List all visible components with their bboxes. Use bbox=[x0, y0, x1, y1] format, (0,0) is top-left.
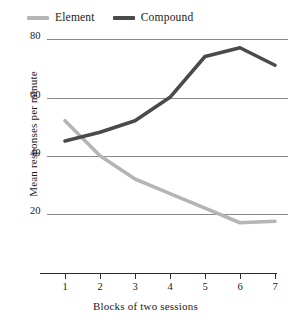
x-tick-7 bbox=[275, 273, 276, 279]
series-line-compound bbox=[65, 48, 275, 141]
x-tick-6 bbox=[240, 273, 241, 279]
x-tick-4 bbox=[170, 273, 171, 279]
series-line-element bbox=[65, 121, 275, 223]
x-tick-5 bbox=[205, 273, 206, 279]
x-tick-label-4: 4 bbox=[163, 282, 177, 293]
x-tick-label-3: 3 bbox=[128, 282, 142, 293]
x-axis-title: Blocks of two sessions bbox=[0, 300, 291, 312]
x-tick-label-7: 7 bbox=[268, 282, 282, 293]
chart-figure: Element Compound Mean responses per minu… bbox=[0, 0, 291, 324]
x-tick-2 bbox=[100, 273, 101, 279]
x-tick-1 bbox=[65, 273, 66, 279]
x-axis-line bbox=[40, 273, 277, 274]
x-tick-label-5: 5 bbox=[198, 282, 212, 293]
x-tick-label-6: 6 bbox=[233, 282, 247, 293]
x-tick-label-2: 2 bbox=[93, 282, 107, 293]
x-tick-3 bbox=[135, 273, 136, 279]
x-tick-label-1: 1 bbox=[58, 282, 72, 293]
plot-area: 80 60 40 20 1 2 3 4 5 6 7 Blocks of two … bbox=[0, 0, 291, 324]
series-layer bbox=[0, 0, 291, 324]
